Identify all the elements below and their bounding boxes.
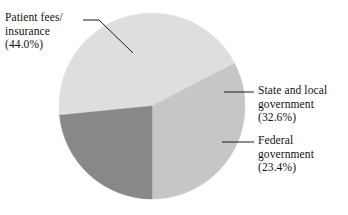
slice-label-state-local-line2: government — [258, 98, 327, 112]
pie-slices — [59, 13, 245, 199]
slice-label-patient-fees-line1: Patient fees/ — [5, 11, 63, 25]
slice-label-federal-line2: government — [258, 148, 314, 162]
pie-slice-federal[interactable] — [59, 106, 152, 199]
slice-label-federal: Federal government (23.4%) — [258, 134, 314, 175]
slice-label-patient-fees-value: (44.0%) — [5, 38, 63, 52]
slice-label-patient-fees-line2: insurance — [5, 25, 63, 39]
slice-label-state-local-value: (32.6%) — [258, 111, 327, 125]
slice-label-federal-value: (23.4%) — [258, 161, 314, 175]
slice-label-state-local: State and local government (32.6%) — [258, 84, 327, 125]
slice-label-patient-fees: Patient fees/ insurance (44.0%) — [5, 11, 63, 52]
slice-label-federal-line1: Federal — [258, 134, 314, 148]
slice-label-state-local-line1: State and local — [258, 84, 327, 98]
pie-chart-figure: Patient fees/ insurance (44.0%) State an… — [0, 0, 348, 215]
